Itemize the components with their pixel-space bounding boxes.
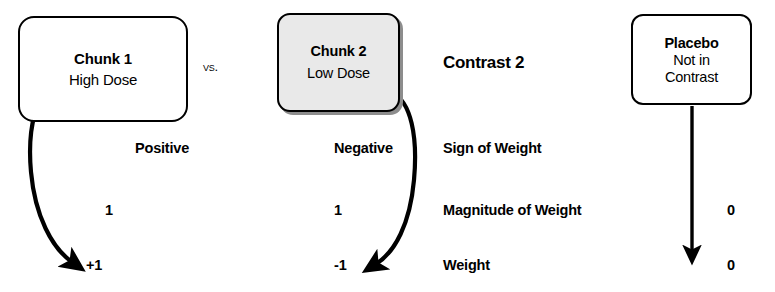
cell-magnitude-chunk1: 1	[105, 202, 113, 218]
node-placebo-subtitle: Not in	[673, 52, 710, 69]
comparator-label: vs.	[203, 59, 218, 74]
node-placebo-title: Placebo	[664, 35, 718, 52]
contrast-heading: Contrast 2	[443, 53, 524, 73]
cell-weight-chunk1: +1	[86, 257, 102, 273]
arrow-chunk2-to-weight	[376, 92, 415, 264]
row-label-magnitude-of-weight: Magnitude of Weight	[443, 202, 582, 218]
row-label-sign-of-weight: Sign of Weight	[443, 140, 541, 156]
node-chunk2-title: Chunk 2	[311, 43, 367, 60]
node-placebo: Placebo Not in Contrast	[631, 14, 752, 105]
cell-magnitude-placebo: 0	[727, 202, 735, 218]
node-chunk1-subtitle: High Dose	[69, 71, 137, 89]
diagram-canvas: Chunk 1 High Dose Chunk 2 Low Dose Place…	[0, 0, 775, 292]
cell-sign-chunk2: Negative	[334, 140, 393, 156]
node-chunk2: Chunk 2 Low Dose	[277, 13, 400, 112]
cell-weight-placebo: 0	[727, 257, 735, 273]
node-placebo-subtitle-line2: Contrast	[665, 69, 718, 86]
row-label-weight: Weight	[443, 257, 490, 273]
node-chunk1: Chunk 1 High Dose	[18, 16, 188, 122]
cell-sign-chunk1: Positive	[135, 140, 189, 156]
node-chunk2-subtitle: Low Dose	[307, 65, 370, 82]
cell-weight-chunk2: -1	[334, 257, 347, 273]
node-chunk1-title: Chunk 1	[74, 50, 132, 68]
cell-magnitude-chunk2: 1	[334, 202, 342, 218]
